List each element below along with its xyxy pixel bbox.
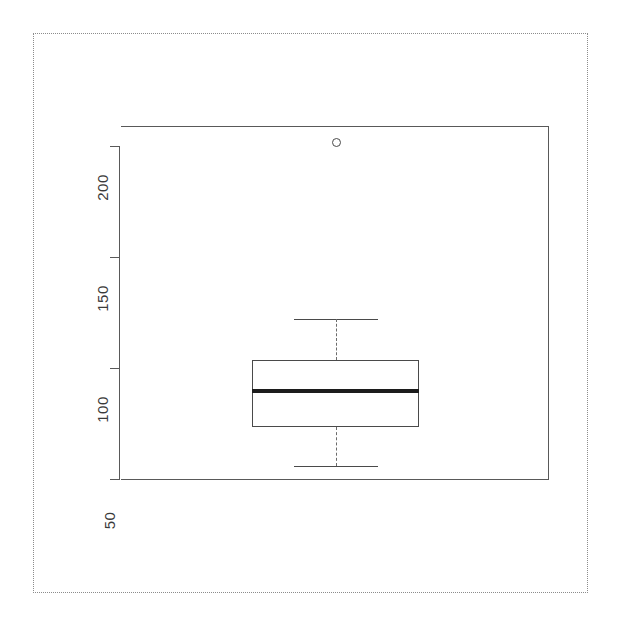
plot-frame-bottom bbox=[121, 479, 549, 480]
y-axis-label-50: 50 bbox=[101, 501, 118, 541]
y-axis-tick-50 bbox=[110, 479, 119, 480]
y-axis-label-150: 150 bbox=[94, 279, 111, 319]
median-line bbox=[252, 389, 419, 393]
box-iqr bbox=[252, 360, 419, 427]
y-axis-tick-200 bbox=[110, 146, 119, 147]
y-axis-line bbox=[119, 146, 120, 480]
figure-canvas: 200 150 100 50 bbox=[0, 0, 625, 628]
lower-whisker-cap bbox=[294, 466, 378, 467]
plot-frame-top bbox=[121, 126, 549, 127]
upper-whisker-stem bbox=[336, 319, 337, 360]
y-axis-tick-150 bbox=[110, 257, 119, 258]
outlier-marker bbox=[332, 138, 341, 147]
lower-whisker-stem bbox=[336, 427, 337, 466]
y-axis-tick-100 bbox=[110, 368, 119, 369]
plot-frame-right bbox=[548, 126, 549, 479]
y-axis-label-200: 200 bbox=[94, 168, 111, 208]
y-axis-label-100: 100 bbox=[94, 390, 111, 430]
